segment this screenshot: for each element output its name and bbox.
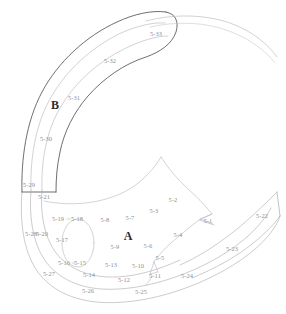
- body-a-outer-contour: [21, 192, 280, 303]
- right-tail-upper: [192, 216, 280, 278]
- region-a-subdivisions: [36, 157, 214, 285]
- region-a-top-arc: [44, 157, 161, 204]
- body-a-outlines: [21, 190, 280, 303]
- body-a-contour-2: [30, 190, 271, 289]
- body-a-contour-3: [42, 190, 180, 277]
- band-b-outlines: [22, 11, 277, 192]
- diagram-svg: [0, 0, 286, 314]
- upper-tail-outer: [146, 16, 277, 57]
- band-b-outer-edge: [22, 11, 166, 192]
- band-b-inner-edge: [56, 12, 177, 192]
- region-a-upper-right-plate: [161, 157, 213, 224]
- figure-container: A B 5-1 5-2 5-3 5-4 5-5 5-6 5-7 5-8 5-9 …: [0, 0, 286, 314]
- band-b-divider-1: [31, 23, 165, 190]
- region-a-line-5-4: [154, 220, 199, 262]
- right-tail-tip: [277, 192, 280, 216]
- right-tail-tip-inner: [180, 192, 277, 265]
- region-a-line-5-11: [146, 276, 152, 285]
- region-a-inner-oval: [62, 219, 94, 267]
- region-a-junction-5-5: [150, 262, 158, 274]
- band-b-divider-2: [42, 36, 168, 190]
